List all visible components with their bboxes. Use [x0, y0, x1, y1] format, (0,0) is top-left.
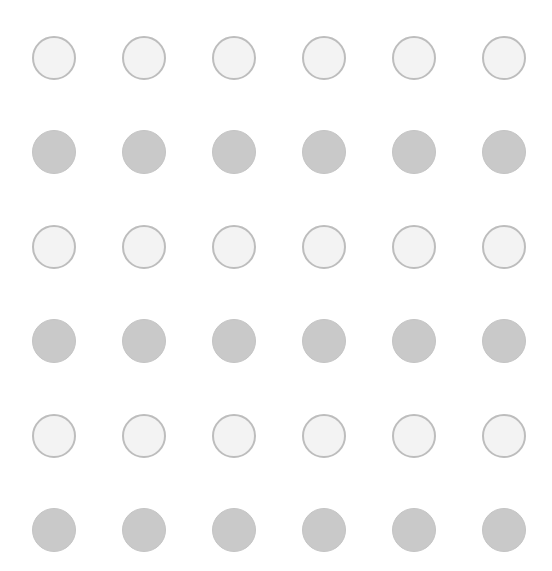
circle-dark-r6-c2 — [122, 508, 166, 552]
circle-light-r5-c4 — [302, 414, 346, 458]
circle-light-r1-c4 — [302, 36, 346, 80]
circle-light-r1-c6 — [482, 36, 526, 80]
circle-dark-r6-c6 — [482, 508, 526, 552]
circle-dark-r4-c6 — [482, 319, 526, 363]
circle-dark-r2-c6 — [482, 130, 526, 174]
circle-light-r1-c1 — [32, 36, 76, 80]
circle-light-r1-c3 — [212, 36, 256, 80]
circle-dark-r4-c2 — [122, 319, 166, 363]
circle-light-r3-c1 — [32, 225, 76, 269]
circle-dark-r2-c2 — [122, 130, 166, 174]
circle-dark-r6-c1 — [32, 508, 76, 552]
circle-dark-r6-c3 — [212, 508, 256, 552]
circle-light-r5-c5 — [392, 414, 436, 458]
dot-grid — [0, 0, 552, 571]
circle-dark-r6-c4 — [302, 508, 346, 552]
circle-light-r5-c3 — [212, 414, 256, 458]
circle-dark-r2-c3 — [212, 130, 256, 174]
circle-dark-r4-c3 — [212, 319, 256, 363]
circle-light-r5-c2 — [122, 414, 166, 458]
circle-light-r3-c6 — [482, 225, 526, 269]
circle-dark-r2-c5 — [392, 130, 436, 174]
circle-dark-r2-c1 — [32, 130, 76, 174]
circle-dark-r4-c1 — [32, 319, 76, 363]
circle-light-r3-c3 — [212, 225, 256, 269]
circle-dark-r4-c5 — [392, 319, 436, 363]
circle-light-r3-c5 — [392, 225, 436, 269]
circle-dark-r2-c4 — [302, 130, 346, 174]
circle-light-r3-c4 — [302, 225, 346, 269]
circle-light-r5-c1 — [32, 414, 76, 458]
circle-dark-r6-c5 — [392, 508, 436, 552]
circle-light-r5-c6 — [482, 414, 526, 458]
circle-light-r1-c5 — [392, 36, 436, 80]
circle-light-r1-c2 — [122, 36, 166, 80]
circle-dark-r4-c4 — [302, 319, 346, 363]
circle-light-r3-c2 — [122, 225, 166, 269]
